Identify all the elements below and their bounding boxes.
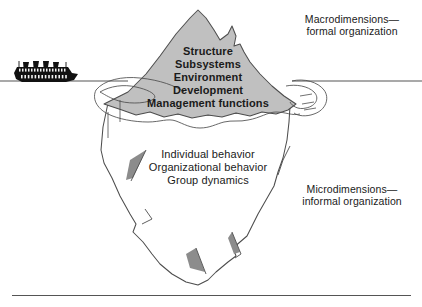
- above-water-item-list: Structure Subsystems Environment Develop…: [120, 45, 296, 110]
- below-water-item-list: Individual behavior Organizational behav…: [118, 148, 298, 187]
- microdimensions-line-2: informal organization: [286, 195, 418, 207]
- ocean-liner-icon: [14, 61, 78, 82]
- macrodimensions-label: Macrodimensions— formal organization: [286, 13, 418, 38]
- microdimensions-line-1: Microdimensions—: [286, 183, 418, 195]
- bottom-divider: [12, 295, 411, 296]
- iceberg-diagram: Macrodimensions— formal organization Mic…: [0, 0, 422, 307]
- microdimensions-label: Microdimensions— informal organization: [286, 183, 418, 208]
- above-water-item: Development: [120, 84, 296, 97]
- macrodimensions-line-2: formal organization: [286, 25, 418, 37]
- above-water-item: Environment: [120, 71, 296, 84]
- above-water-item: Structure: [120, 45, 296, 58]
- below-water-item: Group dynamics: [118, 174, 298, 187]
- ship-funnels: [23, 61, 59, 67]
- macrodimensions-line-1: Macrodimensions—: [286, 13, 418, 25]
- above-water-item: Management functions: [120, 97, 296, 110]
- above-water-item: Subsystems: [120, 58, 296, 71]
- below-water-item: Organizational behavior: [118, 161, 298, 174]
- below-water-item: Individual behavior: [118, 148, 298, 161]
